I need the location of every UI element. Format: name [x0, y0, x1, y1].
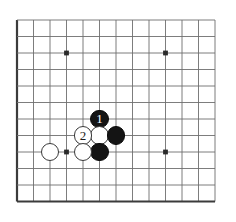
black-stone-right[interactable]	[107, 126, 126, 145]
grid-lines	[17, 20, 215, 202]
stone-move-number: 1	[91, 111, 108, 128]
star-point-upper-left	[64, 51, 69, 56]
star-point-lower-left	[64, 150, 69, 155]
black-stone-below[interactable]	[90, 143, 109, 162]
stone-move-number: 2	[75, 127, 92, 144]
star-point-lower-right	[163, 150, 168, 155]
star-point-upper-right	[163, 51, 168, 56]
go-board-figure: 12	[0, 0, 236, 222]
go-board-grid[interactable]	[0, 0, 236, 222]
